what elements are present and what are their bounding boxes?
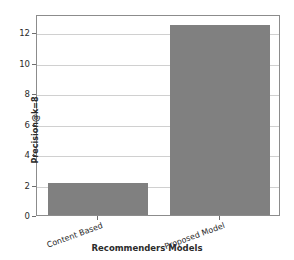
x-tick-mark <box>219 216 220 220</box>
y-tick-mark <box>32 94 36 95</box>
y-tick-mark <box>32 216 36 217</box>
y-tick-mark <box>32 33 36 34</box>
x-tick-mark <box>97 216 98 220</box>
y-tick-mark <box>32 64 36 65</box>
y-tick-label: 10 <box>0 59 30 69</box>
x-axis-title: Recommenders Models <box>0 243 294 253</box>
y-tick-label: 12 <box>0 28 30 38</box>
y-tick-label: 8 <box>0 89 30 99</box>
bar-chart-figure: 024681012 Content BasedProposed Model Pr… <box>0 0 294 260</box>
y-tick-mark <box>32 186 36 187</box>
y-tick-label: 6 <box>0 120 30 130</box>
y-tick-label: 2 <box>0 181 30 191</box>
y-tick-label: 0 <box>0 211 30 221</box>
y-axis-title: Precision@k=8 <box>31 96 40 163</box>
y-axis: 024681012 <box>0 0 294 260</box>
y-tick-label: 4 <box>0 150 30 160</box>
